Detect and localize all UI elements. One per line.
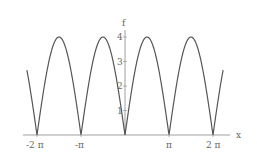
plot-canvas: x f -2 π -π π 2 π 1 2 3 4 — [0, 0, 257, 159]
y-axis-label: f — [122, 18, 126, 28]
y-tick-label: 3 — [117, 57, 123, 67]
y-tick-label: 1 — [117, 106, 123, 116]
x-tick-label: 2 π — [206, 140, 221, 150]
x-tick-label: -π — [75, 140, 84, 150]
y-tick-label: 2 — [117, 81, 123, 91]
y-tick-label: 4 — [117, 32, 123, 42]
x-tick-label: π — [166, 140, 172, 150]
x-tick-label: -2 π — [26, 140, 44, 150]
x-axis-label: x — [236, 130, 241, 140]
